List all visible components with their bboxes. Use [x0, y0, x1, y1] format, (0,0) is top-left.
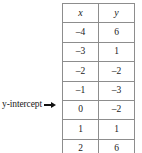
table-row-y-intercept: 0 –2: [63, 100, 135, 119]
table-row: 1 1: [63, 120, 135, 139]
cell-x: 0: [63, 100, 99, 119]
table-row: 2 6: [63, 139, 135, 153]
column-header-x: x: [63, 4, 99, 23]
cell-y: 6: [99, 23, 135, 42]
cell-y: 6: [99, 139, 135, 153]
table-row: –4 6: [63, 23, 135, 42]
cell-x: –4: [63, 23, 99, 42]
cell-y: 1: [99, 120, 135, 139]
cell-x: 1: [63, 120, 99, 139]
cell-y: 1: [99, 42, 135, 61]
arrow-right-icon: [44, 102, 56, 109]
cell-x: –3: [63, 42, 99, 61]
cell-x: –1: [63, 81, 99, 100]
table-row: –3 1: [63, 42, 135, 61]
figure-root: y-intercept x y –4 6 –3 1: [0, 0, 142, 153]
cell-y: –3: [99, 81, 135, 100]
xy-value-table: x y –4 6 –3 1 –2 –2 –1 –3 0 –2: [62, 3, 135, 153]
y-intercept-label: y-intercept: [2, 100, 42, 110]
cell-y: –2: [99, 100, 135, 119]
cell-y: –2: [99, 62, 135, 81]
table-header-row: x y: [63, 4, 135, 23]
column-header-y: y: [99, 4, 135, 23]
y-intercept-annotation: y-intercept: [2, 97, 62, 113]
cell-x: 2: [63, 139, 99, 153]
cell-x: –2: [63, 62, 99, 81]
table-row: –2 –2: [63, 62, 135, 81]
arrow-head: [51, 102, 56, 108]
table-row: –1 –3: [63, 81, 135, 100]
